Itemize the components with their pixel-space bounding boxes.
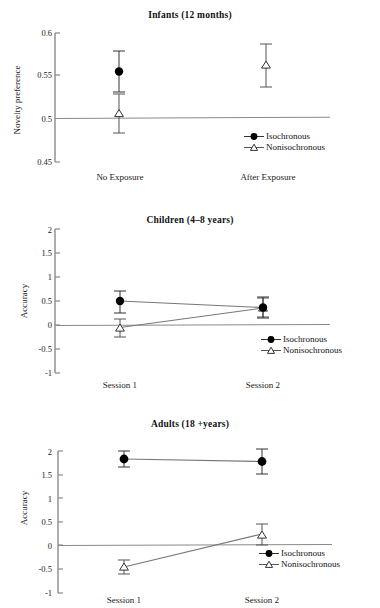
legend-row-nonisochronous: Nonisochronous (243, 142, 325, 153)
series-line-isochronous (124, 459, 262, 462)
legend-label-nonisochronous: Nonisochronous (282, 345, 342, 356)
legend-children: Isochronous Nonisochronous (260, 334, 342, 356)
datapoint-iso-session-2 (256, 449, 268, 474)
datapoint-noniso-no-exposure (113, 94, 125, 133)
legend-marker-filled-circle-icon (243, 131, 265, 142)
legend-marker-filled-circle-icon (260, 334, 282, 345)
figure-root: Infants (12 months) Novelty preference 0… (0, 0, 380, 608)
legend-label-isochronous: Isochronous (282, 334, 327, 345)
series-line-isochronous (120, 301, 263, 308)
legend-label-nonisochronous: Nonisochronous (280, 559, 340, 570)
x-tick-adults-0: Session 1 (80, 595, 168, 605)
legend-label-nonisochronous: Nonisochronous (265, 142, 325, 153)
legend-adults: Isochronous Nonisochronous (258, 548, 340, 570)
legend-marker-open-triangle-icon (260, 345, 282, 356)
legend-row-nonisochronous: Nonisochronous (260, 345, 342, 356)
plot-area-infants (0, 0, 380, 196)
plot-area-children (0, 196, 380, 398)
datapoint-iso-session-1 (114, 291, 126, 313)
x-tick-children-1: Session 2 (219, 380, 307, 390)
legend-marker-filled-circle-icon (258, 548, 280, 559)
baseline-zero (58, 545, 332, 546)
x-tick-adults-1: Session 2 (218, 595, 306, 605)
datapoint-iso-no-exposure (113, 51, 125, 92)
legend-row-isochronous: Isochronous (243, 131, 325, 142)
x-tick-infants-0: No Exposure (74, 172, 166, 182)
legend-label-isochronous: Isochronous (265, 131, 310, 142)
baseline-zero (55, 325, 330, 326)
legend-marker-open-triangle-icon (243, 142, 265, 153)
datapoint-noniso-after-exposure (260, 44, 272, 87)
chart-panel-adults: Adults (18 +years) Accuracy 2 1.5 1 0.5 … (0, 398, 380, 608)
chart-panel-children: Children (4–8 years) Accuracy 2 1.5 1 0.… (0, 196, 380, 398)
legend-label-isochronous: Isochronous (280, 548, 325, 559)
datapoint-noniso-session-1 (118, 560, 130, 574)
legend-row-nonisochronous: Nonisochronous (258, 559, 340, 570)
series-line-nonisochronous (124, 534, 262, 567)
plot-area-adults (0, 398, 380, 608)
chart-panel-infants: Infants (12 months) Novelty preference 0… (0, 0, 380, 196)
legend-row-isochronous: Isochronous (258, 548, 340, 559)
x-tick-infants-1: After Exposure (222, 172, 314, 182)
legend-infants: Isochronous Nonisochronous (243, 131, 325, 153)
datapoint-iso-session-1 (118, 451, 130, 467)
x-tick-children-0: Session 1 (76, 380, 164, 390)
datapoint-noniso-session-1 (114, 319, 126, 337)
legend-marker-open-triangle-icon (258, 559, 280, 570)
legend-row-isochronous: Isochronous (260, 334, 342, 345)
baseline-0p5 (55, 117, 330, 118)
